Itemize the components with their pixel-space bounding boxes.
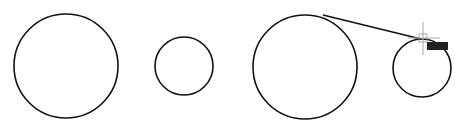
circle-2[interactable]	[155, 37, 213, 95]
snap-tooltip	[427, 42, 448, 50]
drawing-canvas[interactable]	[0, 0, 464, 132]
crosshair-cursor-icon	[408, 22, 440, 55]
circle-3[interactable]	[253, 15, 357, 119]
circle-1[interactable]	[14, 14, 118, 118]
